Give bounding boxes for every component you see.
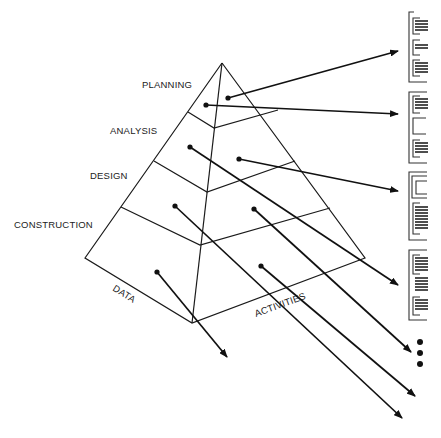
vertical-ellipsis-icon <box>417 339 423 367</box>
level-line-design <box>121 207 330 245</box>
level-label-construction: CONSTRUCTION <box>14 219 93 230</box>
pyramid-diagram: PLANNING ANALYSIS DESIGN CONSTRUCTION DA… <box>0 0 441 438</box>
document-1-icon <box>409 12 428 82</box>
level-label-analysis: ANALYSIS <box>110 125 157 136</box>
face-label-data: DATA <box>111 282 138 305</box>
document-3-icon <box>409 172 428 240</box>
connector-arrows <box>154 51 415 418</box>
level-label-design: DESIGN <box>90 170 128 181</box>
level-label-planning: PLANNING <box>142 79 192 90</box>
pyramid <box>85 63 365 323</box>
level-line-planning <box>188 110 278 128</box>
document-2-icon <box>409 92 428 163</box>
pyramid-front-ridge <box>192 63 222 323</box>
pyramid-left-edge <box>85 63 365 323</box>
document-4-icon <box>409 250 428 320</box>
